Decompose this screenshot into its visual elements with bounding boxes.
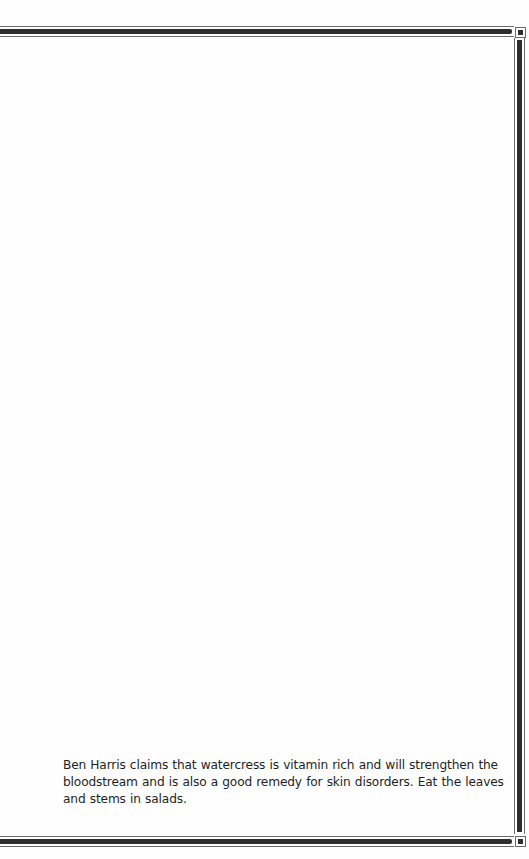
right-border-rule bbox=[514, 38, 526, 834]
top-border-thick-line bbox=[0, 29, 512, 34]
bottom-border-rule bbox=[0, 836, 514, 848]
right-border-thin-line-inner bbox=[524, 38, 525, 834]
bottom-border-thin-line-outer bbox=[0, 836, 514, 837]
right-border-thick-line bbox=[517, 40, 522, 832]
bottom-border-thin-line-inner bbox=[0, 846, 514, 847]
top-border-thin-line-outer bbox=[0, 26, 514, 27]
top-border-rule bbox=[0, 26, 514, 38]
corner-square-icon bbox=[518, 30, 523, 35]
document-page: Ben Harris claims that watercress is vit… bbox=[0, 0, 529, 859]
top-right-corner-ornament bbox=[515, 27, 526, 38]
bottom-right-corner-ornament bbox=[515, 836, 526, 847]
corner-square-icon bbox=[518, 839, 523, 844]
top-border-thin-line-inner bbox=[0, 36, 514, 37]
right-border-thin-line-outer bbox=[514, 38, 515, 834]
body-paragraph: Ben Harris claims that watercress is vit… bbox=[63, 757, 508, 808]
bottom-border-thick-line bbox=[0, 839, 512, 844]
